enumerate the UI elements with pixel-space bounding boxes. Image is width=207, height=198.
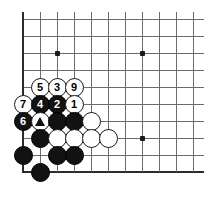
- stone-black: [65, 146, 84, 165]
- stone-white-move-5: 5: [31, 78, 50, 97]
- move-number-label: 9: [71, 81, 77, 92]
- stone-black: [14, 146, 33, 165]
- stone-white-move-3: 3: [48, 78, 67, 97]
- move-number-label: 7: [20, 98, 26, 109]
- triangle-mark-icon: [35, 117, 45, 126]
- stone-white: [82, 129, 101, 148]
- stone-white: [82, 112, 101, 131]
- stone-white: [99, 129, 118, 148]
- move-number-label: 6: [20, 115, 26, 126]
- stone-black: [48, 112, 67, 131]
- stone-black-move-6: 6: [14, 112, 33, 131]
- stone-black-move-2: 2: [48, 95, 67, 114]
- stone-black: [31, 129, 50, 148]
- stone-black: [48, 146, 67, 165]
- stone-white: [48, 129, 67, 148]
- stone-white-move-9: 9: [65, 78, 84, 97]
- stone-white: [65, 129, 84, 148]
- stone-white-move-7: 7: [14, 95, 33, 114]
- move-number-label: 2: [54, 98, 60, 109]
- stone-black: [31, 163, 50, 182]
- go-board-diagram: 53974216: [0, 0, 207, 198]
- move-number-label: 4: [37, 98, 43, 109]
- move-number-label: 3: [54, 81, 60, 92]
- stone-white-move-1: 1: [65, 95, 84, 114]
- move-number-label: 5: [37, 81, 43, 92]
- stone-layer: 53974216: [0, 0, 207, 198]
- stone-white-marked-triangle: [31, 112, 50, 131]
- move-number-label: 1: [71, 98, 77, 109]
- stone-black: [65, 112, 84, 131]
- stone-black-move-4: 4: [31, 95, 50, 114]
